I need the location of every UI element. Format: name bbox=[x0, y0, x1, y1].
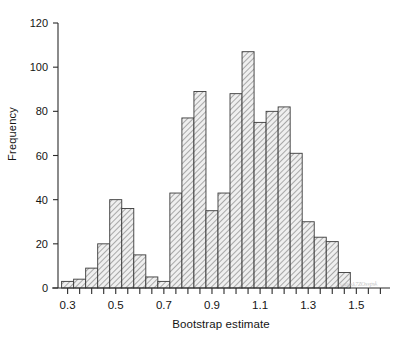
plot-canvas bbox=[0, 0, 402, 344]
histogram-bar bbox=[266, 111, 278, 288]
x-tick-label: 0.9 bbox=[192, 299, 232, 311]
y-tick-label: 120 bbox=[18, 17, 48, 29]
histogram-bar bbox=[254, 122, 266, 288]
histogram-bar bbox=[302, 222, 314, 288]
x-tick-label: 0.3 bbox=[48, 299, 88, 311]
x-tick-label: 1.3 bbox=[288, 299, 328, 311]
histogram-bar bbox=[86, 268, 98, 288]
histogram-bar bbox=[242, 52, 254, 288]
bars-layer bbox=[62, 52, 351, 288]
y-tick-label: 40 bbox=[18, 194, 48, 206]
y-tick-label: 0 bbox=[18, 282, 48, 294]
histogram-bar bbox=[230, 94, 242, 288]
histogram-bar bbox=[98, 244, 110, 288]
histogram-figure: 020406080100120 0.30.50.70.91.11.31.5 Fr… bbox=[0, 0, 402, 344]
histogram-bar bbox=[170, 193, 182, 288]
x-axis-tick-labels: 0.30.50.70.91.11.31.5 bbox=[0, 299, 402, 317]
histogram-bar bbox=[278, 107, 290, 288]
histogram-bar bbox=[314, 237, 326, 288]
x-tick-label: 1.1 bbox=[240, 299, 280, 311]
histogram-bar bbox=[182, 118, 194, 288]
y-axis-tick-labels: 020406080100120 bbox=[18, 0, 48, 344]
histogram-bar bbox=[194, 91, 206, 288]
histogram-bar bbox=[110, 200, 122, 288]
x-tick-label: 0.7 bbox=[144, 299, 184, 311]
x-tick-label: 1.5 bbox=[336, 299, 376, 311]
histogram-bar bbox=[62, 281, 74, 288]
histogram-bar bbox=[158, 281, 170, 288]
x-tick-label: 0.5 bbox=[96, 299, 136, 311]
histogram-bar bbox=[206, 211, 218, 288]
histogram-bar bbox=[218, 193, 230, 288]
histogram-bar bbox=[338, 273, 350, 288]
histogram-bar bbox=[290, 153, 302, 288]
histogram-bar bbox=[146, 277, 158, 288]
histogram-bar bbox=[74, 279, 86, 288]
histogram-bar bbox=[326, 242, 338, 288]
y-tick-label: 100 bbox=[18, 61, 48, 73]
histogram-bar bbox=[134, 255, 146, 288]
x-axis-title: Bootstrap estimate bbox=[56, 318, 386, 330]
y-tick-label: 20 bbox=[18, 238, 48, 250]
y-tick-label: 60 bbox=[18, 150, 48, 162]
y-axis-title: Frequency bbox=[6, 94, 18, 174]
histogram-bar bbox=[122, 209, 134, 289]
y-tick-label: 80 bbox=[18, 105, 48, 117]
